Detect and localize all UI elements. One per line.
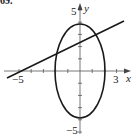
ellipse-line-plot: [0, 0, 136, 138]
x-max-tick-label: 3: [113, 74, 119, 85]
y-axis-arrow-icon: [78, 3, 83, 10]
y-axis-label: y: [84, 3, 89, 14]
y-min-tick-label: −5: [66, 125, 78, 136]
x-min-tick-label: −5: [12, 74, 24, 85]
y-max-tick-label: 5: [71, 6, 77, 17]
line-curve: [7, 21, 124, 78]
x-axis-label: x: [126, 73, 131, 84]
